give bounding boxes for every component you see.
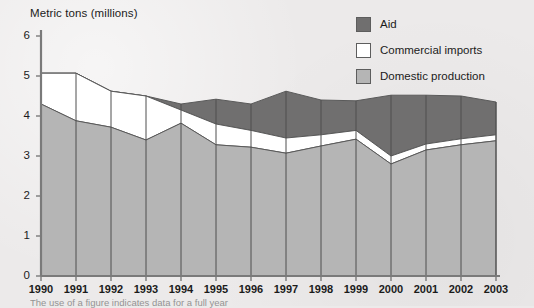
y-tick-label-0: 0 — [8, 270, 30, 282]
x-tick-label-1998: 1998 — [301, 284, 341, 295]
chart-legend: Aid Commercial imports Domestic producti… — [356, 17, 485, 84]
x-tick-label-1990: 1990 — [21, 284, 61, 295]
x-tick-label-2003: 2003 — [476, 284, 516, 295]
x-tick-label-1997: 1997 — [266, 284, 306, 295]
legend-swatch-domestic-production — [356, 69, 371, 84]
y-tick-label-3: 3 — [8, 150, 30, 162]
x-tick-label-1993: 1993 — [126, 284, 166, 295]
x-tick-label-2000: 2000 — [371, 284, 411, 295]
y-tick-label-1: 1 — [8, 230, 30, 242]
y-tick-label-5: 5 — [8, 70, 30, 82]
legend-label-aid: Aid — [380, 19, 397, 31]
x-tick-label-1999: 1999 — [336, 284, 376, 295]
legend-swatch-commercial-imports — [356, 43, 371, 58]
legend-label-commercial-imports: Commercial imports — [380, 45, 482, 57]
y-tick-label-2: 2 — [8, 190, 30, 202]
x-tick-label-1996: 1996 — [231, 284, 271, 295]
x-tick-label-1995: 1995 — [196, 284, 236, 295]
legend-label-domestic-production: Domestic production — [380, 71, 485, 83]
y-tick-label-4: 4 — [8, 110, 30, 122]
x-tick-label-2001: 2001 — [406, 284, 446, 295]
legend-swatch-aid — [356, 17, 371, 32]
legend-item-aid: Aid — [356, 17, 485, 32]
legend-item-commercial-imports: Commercial imports — [356, 43, 485, 58]
chart-series-areas — [41, 73, 496, 276]
x-tick-label-1994: 1994 — [161, 284, 201, 295]
figure-footnote: The use of a figure indicates data for a… — [30, 297, 228, 308]
x-tick-label-2002: 2002 — [441, 284, 481, 295]
y-tick-label-6: 6 — [8, 30, 30, 42]
legend-item-domestic-production: Domestic production — [356, 69, 485, 84]
x-tick-label-1991: 1991 — [56, 284, 96, 295]
x-tick-label-1992: 1992 — [91, 284, 131, 295]
